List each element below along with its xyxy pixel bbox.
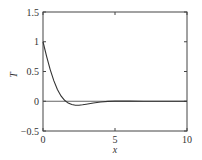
y-tick-label: 1.5 [27, 7, 40, 18]
x-tick-label: 0 [41, 134, 46, 145]
y-tick-labels: −0.500.511.5 [21, 7, 39, 137]
x-tick-label: 10 [182, 134, 192, 145]
ticks [43, 12, 187, 131]
y-tick-label: 1 [34, 36, 39, 47]
y-tick-label: 0.5 [27, 66, 40, 77]
y-tick-label: −0.5 [21, 126, 39, 137]
plot-area [43, 12, 187, 131]
chart: −0.500.511.5 0510 T x [0, 0, 202, 160]
y-axis-label: T [8, 71, 19, 78]
y-tick-label: 0 [34, 96, 39, 107]
x-axis-label: x [112, 144, 118, 155]
axes-frame [43, 12, 187, 131]
data-line-T [43, 42, 187, 105]
